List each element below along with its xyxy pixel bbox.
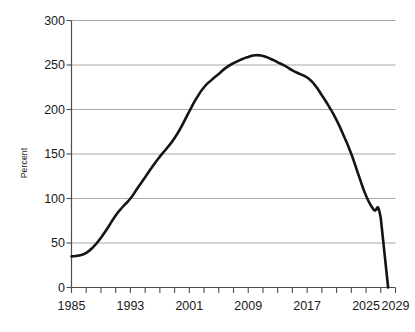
data-line-series	[72, 55, 389, 287]
chart-container: Percent 300250200150100500 1985199320012…	[0, 0, 415, 332]
y-tick-marks-group	[67, 21, 72, 288]
x-tick-marks-group	[72, 288, 396, 294]
plot-area	[0, 0, 415, 332]
